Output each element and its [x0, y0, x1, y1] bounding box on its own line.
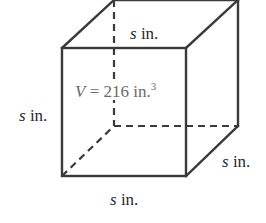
label-variable: s: [19, 106, 26, 125]
edge-depth-top-right: [186, 0, 238, 48]
label-unit: in.: [30, 106, 47, 125]
label-variable: s: [222, 152, 229, 171]
volume-value: 216: [103, 82, 129, 101]
label-top-edge: s in.: [130, 25, 158, 42]
label-variable: s: [130, 24, 137, 43]
edge-depth-top-left: [62, 0, 114, 48]
volume-unit: in.: [133, 82, 150, 101]
volume-exponent: 3: [151, 80, 157, 92]
label-unit: in.: [141, 24, 158, 43]
volume-variable: V: [75, 82, 85, 101]
label-variable: s: [110, 190, 117, 209]
label-unit: in.: [233, 152, 250, 171]
label-right-edge: s in.: [222, 153, 250, 170]
volume-label: V = 216 in.3: [74, 81, 157, 100]
label-unit: in.: [121, 190, 138, 209]
label-left-edge: s in.: [19, 107, 47, 124]
label-bottom-edge: s in.: [110, 191, 138, 208]
hidden-edge-depth-bottom-left: [62, 126, 114, 176]
volume-equals: =: [90, 82, 100, 101]
